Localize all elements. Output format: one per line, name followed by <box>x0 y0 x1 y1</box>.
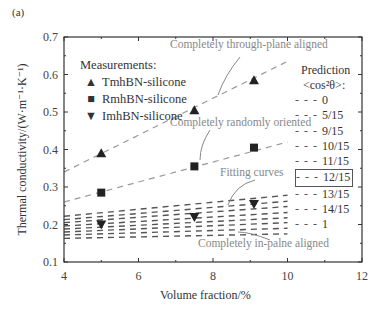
measurements-title: Measurements: <box>80 57 187 74</box>
square-marker <box>97 189 105 197</box>
svg-text:0.3: 0.3 <box>43 180 58 194</box>
legend-item: ■RmhBN-silicone <box>80 91 187 108</box>
svg-text:0.1: 0.1 <box>43 255 58 269</box>
svg-text:0.2: 0.2 <box>43 218 58 232</box>
triangle-up-marker <box>249 75 259 84</box>
legend-item: ▲TmhBN-silicone <box>80 74 187 91</box>
prediction-legend-item: - - - 10/15 <box>295 139 353 154</box>
annotation-text: Completely randomly oriented <box>170 116 311 129</box>
arrow-icon <box>200 130 210 160</box>
prediction-legend-item: - - - 1 <box>295 217 353 232</box>
triangle-up-icon: ▲ <box>80 74 102 91</box>
square-icon: ■ <box>80 91 102 108</box>
svg-text:0.5: 0.5 <box>43 105 58 119</box>
prediction-legend-item: - - - 5/15 <box>295 108 353 123</box>
triangle-down-marker <box>96 221 106 230</box>
svg-text:0.6: 0.6 <box>43 68 58 82</box>
square-marker <box>250 144 258 152</box>
legend-item: ▼ImhBN-silicone <box>80 108 187 125</box>
measurements-legend: Measurements: ▲TmhBN-silicone ■RmhBN-sil… <box>80 57 187 125</box>
x-axis-label: Volume fraction/% <box>160 288 251 303</box>
svg-text:6: 6 <box>136 269 142 283</box>
prediction-legend-item: - - - 11/15 <box>295 154 353 169</box>
prediction-title: Prediction <box>295 63 353 78</box>
svg-text:0.4: 0.4 <box>43 143 58 157</box>
svg-text:12: 12 <box>356 269 368 283</box>
y-axis-label: Thermal conductivity/(W·m⁻¹·K⁻¹) <box>15 40 30 260</box>
prediction-subtitle: <cos²θ>: <box>295 78 353 93</box>
prediction-legend-item: - - - 9/15 <box>295 124 353 139</box>
annotation-text: Fitting curves <box>220 166 284 179</box>
prediction-legend-item: - - - 14/15 <box>295 202 353 217</box>
svg-text:4: 4 <box>61 269 67 283</box>
svg-text:10: 10 <box>282 269 294 283</box>
svg-text:0.7: 0.7 <box>43 30 58 44</box>
triangle-up-marker <box>189 105 199 114</box>
prediction-legend-item: - - - 0 <box>295 93 353 108</box>
arrow-icon <box>218 57 240 95</box>
triangle-down-icon: ▼ <box>80 108 102 125</box>
triangle-up-marker <box>96 148 106 157</box>
svg-text:8: 8 <box>210 269 216 283</box>
annotation-text: Completely through-plane aligned <box>170 38 328 51</box>
annotation-text: Completely in-palne aligned <box>198 237 329 250</box>
panel-label: (a) <box>12 6 24 18</box>
prediction-legend: Prediction <cos²θ>: - - - 0- - - 5/15- -… <box>295 63 353 233</box>
prediction-legend-item: - - - 13/15 <box>295 187 353 202</box>
prediction-legend-item: - - - 12/15 <box>295 169 353 186</box>
square-marker <box>190 162 198 170</box>
